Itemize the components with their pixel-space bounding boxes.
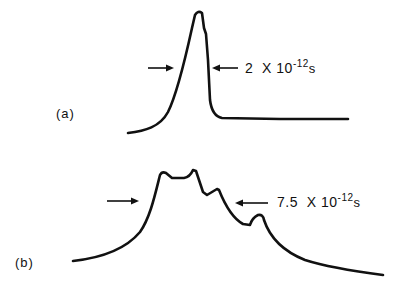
- fwhm-arrow-right-b: [235, 200, 268, 207]
- annotation-exponent: -12: [293, 58, 309, 69]
- annotation-unit: s: [354, 195, 361, 210]
- annotation-base: 10: [276, 60, 293, 76]
- fwhm-arrow-left-b: [107, 198, 139, 205]
- annotation-unit: s: [309, 61, 316, 76]
- fwhm-arrow-right-a: [212, 65, 238, 72]
- panel-label-b: (b): [15, 255, 34, 270]
- pulse-figure: [0, 0, 399, 290]
- pulse-b-curve: [73, 170, 383, 275]
- annotation-mantissa: 7.5: [277, 194, 298, 210]
- annotation-times: X: [307, 194, 317, 210]
- pulse-width-annotation-b: 7.5 X 10-12s: [277, 194, 361, 210]
- annotation-base: 10: [321, 194, 338, 210]
- pulse-width-annotation-a: 2 X 10-12s: [245, 60, 316, 76]
- annotation-times: X: [262, 60, 272, 76]
- panel-label-a: (a): [56, 106, 75, 121]
- annotation-exponent: -12: [338, 192, 354, 203]
- fwhm-arrow-left-a: [148, 65, 174, 72]
- annotation-mantissa: 2: [245, 60, 253, 76]
